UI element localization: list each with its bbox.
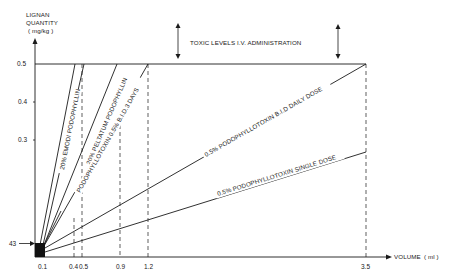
arrow-up-icon <box>176 23 181 28</box>
label-bid-3days: PODOPHYLLOTOXIN 0.5% B.I.D.3 DAYS <box>74 77 146 196</box>
label-daily-dose: 0.5% PODOPHYLLOTOXIN B.I.D DAILY DOSE <box>201 80 332 160</box>
arrow-up-icon <box>336 24 341 29</box>
toxic-levels-label: TOXIC LEVELS I.V. ADMINISTRATION <box>190 39 301 46</box>
x-tick-1.2: 1.2 <box>144 263 153 270</box>
origin-block <box>35 243 45 257</box>
y-axis-title-line2: QUANTITY <box>26 19 58 26</box>
x-axis-unit: ( ml ) <box>424 253 439 260</box>
marker-43-label: 43 <box>9 240 17 247</box>
toxic-arrow-left <box>176 23 181 59</box>
chart-canvas: LIGNAN QUANTITY ( mg/kg ) 0.5 0.4 0.3 0.… <box>0 0 455 279</box>
y-axis-unit: ( mg/kg ) <box>28 27 53 34</box>
y-tick-0.4: 0.4 <box>18 98 27 105</box>
label-single-dose: 0.5% PODOPHYLLOTOXIN SINGLE DOSE <box>214 151 344 198</box>
arrow-down-icon <box>176 54 181 59</box>
arrow-down-icon <box>336 54 341 59</box>
x-axis-title: VOLUME <box>394 253 421 260</box>
y-tick-0.3: 0.3 <box>18 136 27 143</box>
marker-43-arrow <box>19 241 35 246</box>
x-tick-0.4: 0.4 <box>69 263 78 270</box>
svg-text:0.5% PODOPHYLLOTOXIN SINGLE DO: 0.5% PODOPHYLLOTOXIN SINGLE DOSE <box>216 153 337 197</box>
y-axis-title-line1: LIGNAN <box>26 11 50 18</box>
y-axis <box>33 38 38 257</box>
label-emodi: 20% EMODI PODOPHYLLIN <box>57 88 82 174</box>
y-axis-arrow-icon <box>33 38 38 44</box>
svg-text:0.5% PODOPHYLLOTOXIN B.I.D DAI: 0.5% PODOPHYLLOTOXIN B.I.D DAILY DOSE <box>203 85 323 158</box>
toxic-arrow-right <box>336 24 341 59</box>
x-tick-3.5: 3.5 <box>361 263 370 270</box>
x-axis <box>35 255 392 260</box>
x-tick-0.9: 0.9 <box>116 263 125 270</box>
arrow-right-icon <box>30 241 35 246</box>
x-axis-arrow-icon <box>386 255 392 260</box>
svg-text:20% EMODI PODOPHYLLIN: 20% EMODI PODOPHYLLIN <box>58 88 81 170</box>
svg-text:PODOPHYLLOTOXIN 0.5% B.I.D.3 D: PODOPHYLLOTOXIN 0.5% B.I.D.3 DAYS <box>75 86 140 193</box>
y-tick-0.5: 0.5 <box>17 60 26 67</box>
x-tick-0.5: 0.5 <box>79 263 88 270</box>
x-tick-0.1: 0.1 <box>38 263 47 270</box>
